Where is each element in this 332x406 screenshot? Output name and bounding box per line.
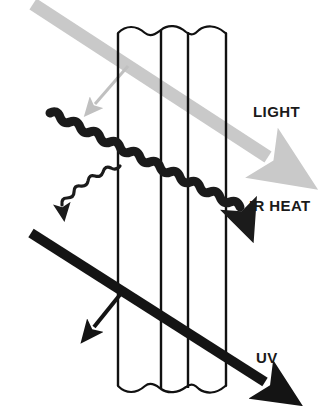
uv-ray-group (31, 233, 265, 382)
label-light: LIGHT (253, 104, 300, 119)
label-ir-heat: IR HEAT (249, 198, 311, 213)
glass-bottom-break (118, 384, 226, 393)
light-ray-group (33, 4, 268, 157)
glass-panes (118, 26, 226, 392)
light-reflected-ray (95, 66, 128, 104)
glazing-diagram: LIGHT IR HEAT UV (0, 0, 332, 406)
light-beam (33, 4, 268, 157)
uv-beam (31, 233, 265, 382)
glass-top-break (118, 26, 226, 35)
ir-heat-reflected-wave (62, 166, 120, 205)
label-uv: UV (256, 350, 278, 365)
